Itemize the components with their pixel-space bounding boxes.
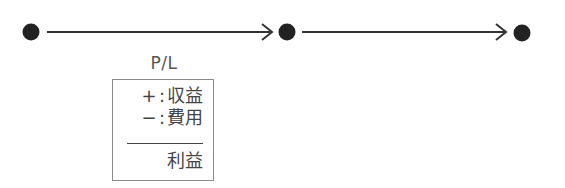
pl-row-profit: 利益 (167, 151, 203, 171)
arrow-2 (302, 24, 506, 40)
pl-title: P/L (143, 53, 185, 73)
profit-label: 利益 (167, 150, 203, 171)
colon: : (157, 86, 167, 106)
colon: : (157, 108, 167, 128)
expense-label: 費用 (167, 107, 203, 128)
sum-divider (127, 143, 203, 144)
pl-row-expense: −:費用 (141, 108, 203, 128)
minus-sign: − (141, 108, 157, 128)
plus-sign: + (141, 86, 157, 106)
timeline-arrows (0, 0, 565, 188)
pl-box: +:収益 −:費用 利益 (112, 79, 214, 181)
revenue-label: 収益 (167, 85, 203, 106)
pl-flow-diagram: P/L +:収益 −:費用 利益 (0, 0, 565, 188)
node-3-circle-icon (514, 25, 531, 42)
pl-row-revenue: +:収益 (141, 86, 203, 106)
node-2-circle-icon (279, 24, 296, 41)
arrow-1 (47, 24, 272, 40)
node-1-circle-icon (23, 24, 40, 41)
